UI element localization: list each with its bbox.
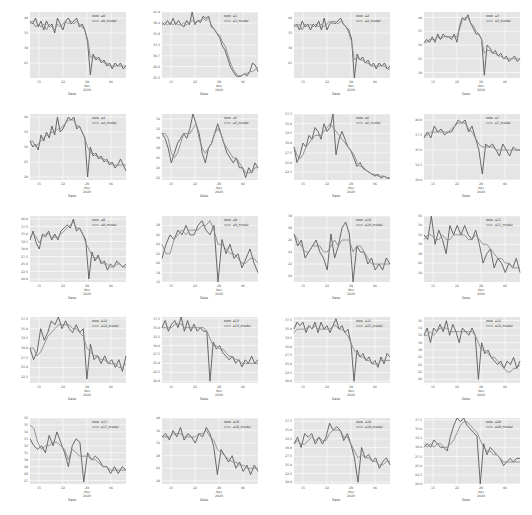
legend-label: a6_model [365,121,381,125]
x-tick-label: 06 [503,385,507,389]
legend-label: a18 [233,420,239,424]
x-axis-label: Date [462,498,470,502]
y-tick-label: 41.0 [153,10,160,14]
line-chart-a6: 22.525.027.530.032.535.037.515222906Nov2… [272,106,402,206]
x-tick-label: 22 [455,80,459,84]
x-tick-label: 06 [373,284,377,288]
x-tick-label: 22 [193,385,197,389]
x-tick-label: 06 [241,486,245,490]
x-year-label: 2020 [347,393,355,397]
legend-label: a13_model [233,324,251,328]
y-tick-label: 28.2 [153,65,160,69]
line-chart-a11: 2426283032343615222906Nov2020Datea11a11_… [402,208,532,308]
y-tick-label: 25.0 [285,463,292,467]
y-tick-label: 32 [24,444,28,448]
x-tick-label: 15 [301,80,305,84]
legend-label: a7_model [495,121,511,125]
x-tick-label: 06 [503,80,507,84]
chart-svg: 22.525.027.530.032.535.037.515222906Nov2… [272,106,394,206]
y-tick-label: 22.5 [21,375,28,379]
y-tick-label: 24 [418,271,422,275]
y-tick-label: 30.0 [21,346,28,350]
y-tick-label: 27.5 [285,353,292,357]
x-tick-label: 15 [301,284,305,288]
y-tick-label: 25.0 [153,361,160,365]
x-tick-label: 15 [431,182,435,186]
line-chart-a12: 22.525.027.530.032.535.037.515222906Nov2… [8,309,138,409]
legend-label: a13 [233,319,239,323]
y-tick-label: 27.5 [285,151,292,155]
line-chart-a2: 2530354015222906Nov2020Datea2a2_model [272,4,402,104]
y-tick-label: 35.0 [285,428,292,432]
y-tick-label: 24 [156,242,160,246]
x-tick-label: 22 [193,284,197,288]
y-tick-label: 28 [418,252,422,256]
y-tick-label: 30.0 [21,247,28,251]
y-tick-label: 32.5 [285,336,292,340]
y-tick-label: 35.0 [21,232,28,236]
y-tick-label: 32 [418,333,422,337]
x-year-label: 2020 [347,88,355,92]
x-axis-label: Date [332,92,340,96]
y-tick-label: 40.0 [21,217,28,221]
legend-label: a11 [495,218,501,222]
x-tick-label: 15 [169,385,173,389]
y-tick-label: 35 [418,29,422,33]
y-tick-label: 25.0 [285,161,292,165]
x-tick-label: 22 [325,284,329,288]
chart-grid: 2530354015222906Nov2020Datea0a0_model25.… [0,0,532,515]
x-tick-label: 15 [169,486,173,490]
legend-label: a8 [101,218,105,222]
x-tick-label: 06 [503,182,507,186]
x-tick-label: 06 [241,284,245,288]
y-tick-label: 28 [418,348,422,352]
line-chart-a17: 2728293031323334353615222906Nov2020Datea… [8,410,138,510]
y-tick-label: 35 [24,423,28,427]
legend-label: a12 [101,319,107,323]
legend-label: a20_model [495,425,513,429]
legend-label: a20 [495,420,501,424]
legend-label: a0 [101,14,105,18]
y-tick-label: 25.0 [285,362,292,366]
legend-label: a16_model [495,324,513,328]
y-tick-label: 40 [418,16,422,20]
y-tick-label: 25 [24,61,28,65]
y-tick-label: 35.0 [285,122,292,126]
y-tick-label: 35.0 [415,427,422,431]
x-axis-label: Date [332,397,340,401]
y-tick-label: 34 [418,326,422,330]
y-tick-label: 30.0 [285,345,292,349]
legend-label: a5 [233,116,237,120]
chart-svg: 20.022.525.027.530.032.535.037.515222906… [140,309,262,409]
line-chart-a16: 20222426283032343615222906Nov2020Datea16… [402,309,532,409]
y-tick-label: 30 [24,145,28,149]
y-tick-label: 37.5 [285,419,292,423]
line-chart-a4: 202530354015222906Nov2020Datea4a4_model [8,106,138,206]
x-axis-label: Date [200,194,208,198]
chart-svg: 2224262830323415222906Nov2020Datea5a5_mo… [140,106,262,206]
y-tick-label: 36 [24,416,28,420]
x-tick-label: 22 [455,182,459,186]
x-tick-label: 06 [373,486,377,490]
x-tick-label: 06 [241,385,245,389]
legend-label: a1_model [233,19,249,23]
y-tick-label: 22.5 [415,473,422,477]
legend-label: a0_model [101,19,117,23]
x-tick-label: 06 [373,385,377,389]
y-tick-label: 30 [288,46,292,50]
x-tick-label: 22 [325,486,329,490]
chart-svg: 2530354015222906Nov2020Datea0a0_model [8,4,130,104]
y-tick-label: 30 [288,214,292,218]
x-tick-label: 06 [109,284,113,288]
line-chart-a19: 20.022.525.027.530.032.535.037.515222906… [272,410,402,510]
legend-label: a2_model [365,19,381,23]
legend-label: a11_model [495,223,513,227]
y-tick-label: 27.5 [285,454,292,458]
x-tick-label: 15 [37,385,41,389]
y-tick-label: 20.0 [415,482,422,486]
y-tick-label: 32 [156,127,160,131]
x-tick-label: 22 [61,80,65,84]
legend-label: a4 [101,116,105,120]
x-tick-label: 06 [503,284,507,288]
y-tick-label: 28 [288,226,292,230]
